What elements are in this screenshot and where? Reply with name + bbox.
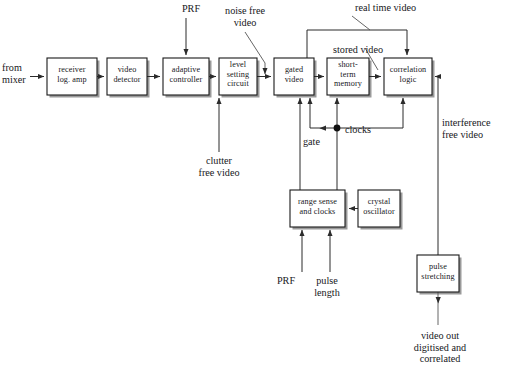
block-shortterm: [327, 58, 369, 95]
block-diagram-canvas: receiver log. amp video detector adaptiv…: [0, 0, 507, 387]
label-interference-free: interference free video: [442, 117, 507, 140]
video-out-wire: [436, 292, 441, 325]
block-shadows: [50, 61, 462, 295]
block-levelset: [219, 58, 257, 95]
diagram-wiring: [0, 0, 507, 387]
label-pulse-length: pulse length: [307, 275, 347, 298]
label-clutter-free-video: clutter free video: [185, 155, 253, 178]
block-outlines: [47, 58, 459, 292]
block-adaptive: [163, 58, 209, 95]
label-real-time-video: real time video: [355, 2, 445, 14]
label-gate: gate: [303, 136, 335, 148]
block-receiver: [47, 58, 97, 95]
label-from-mixer: from mixer: [2, 62, 44, 85]
label-noise-free-video: noise free video: [214, 5, 276, 28]
block-pulsestr: [417, 255, 459, 292]
label-stored-video: stored video: [333, 44, 409, 56]
block-crystal: [358, 190, 400, 227]
label-prf-bottom: PRF: [270, 275, 302, 287]
range-sense-bottom-inputs: [302, 230, 330, 272]
block-rangesense: [290, 190, 345, 227]
block-gated: [274, 58, 314, 95]
label-video-out: video out digitised and correlated: [398, 330, 482, 365]
interference-free-video-wire: [435, 77, 438, 256]
block-detector: [107, 58, 147, 95]
label-clocks: clocks: [345, 124, 389, 136]
block-correlation: [384, 58, 432, 95]
label-prf-top: PRF: [172, 3, 210, 15]
